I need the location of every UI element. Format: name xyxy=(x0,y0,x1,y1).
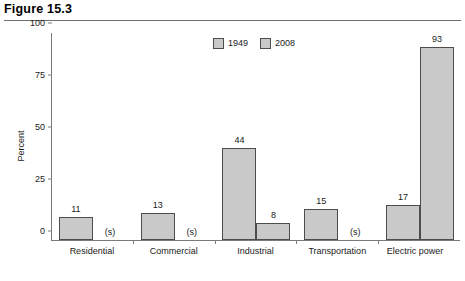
bar-value-label: 13 xyxy=(141,201,175,210)
bar-slot: 44 xyxy=(222,33,256,240)
bar[interactable] xyxy=(420,47,454,240)
bar[interactable] xyxy=(141,213,175,240)
bar-value-label: 17 xyxy=(386,193,420,202)
bar-value-label: 44 xyxy=(222,136,256,145)
bar-chart: Percent 1949 2008 0255075100 11(s)13(s)4… xyxy=(0,22,465,281)
bar[interactable] xyxy=(256,223,290,240)
y-axis-label: Percent xyxy=(16,116,26,176)
bar-slot: 13 xyxy=(141,33,175,240)
bar[interactable] xyxy=(304,209,338,240)
x-axis-tick-mark xyxy=(133,240,134,244)
y-axis-tick: 50 xyxy=(35,123,52,132)
bar-group: 1793 xyxy=(379,33,461,240)
bar-value-label: 11 xyxy=(59,205,93,214)
bar-value-label: 8 xyxy=(256,211,290,220)
bar[interactable] xyxy=(59,217,93,240)
bar[interactable] xyxy=(222,148,256,240)
bar-group-inner: 15(s) xyxy=(297,33,379,240)
bar-group-inner: 13(s) xyxy=(134,33,216,240)
bar-value-label: 15 xyxy=(304,197,338,206)
x-axis-tick-mark xyxy=(296,240,297,244)
bar-group: 448 xyxy=(216,33,298,240)
plot-area: 0255075100 11(s)13(s)44815(s)1793 xyxy=(51,33,460,241)
bar-value-label: 93 xyxy=(420,35,454,44)
bar-slot: 17 xyxy=(386,33,420,240)
bar-group-inner: 11(s) xyxy=(52,33,134,240)
suppressed-value-label: (s) xyxy=(93,228,127,237)
y-axis-tick-label: 100 xyxy=(30,19,45,28)
title-divider xyxy=(4,20,461,21)
bar-group-inner: 448 xyxy=(216,33,298,240)
y-axis-tick: 0 xyxy=(40,227,52,236)
y-axis-tick-label: 75 xyxy=(35,71,45,80)
x-axis-tick-mark xyxy=(215,240,216,244)
bar-groups: 11(s)13(s)44815(s)1793 xyxy=(52,33,460,240)
y-axis-tick-mark xyxy=(48,23,52,24)
y-axis-tick: 75 xyxy=(35,71,52,80)
bar-slot: 93 xyxy=(420,33,454,240)
x-axis-category-label: Industrial xyxy=(215,246,297,257)
bar-slot: 15 xyxy=(304,33,338,240)
x-axis-category-label: Residential xyxy=(51,246,133,257)
bar[interactable] xyxy=(386,205,420,240)
y-axis-tick: 25 xyxy=(35,175,52,184)
bar-group: 15(s) xyxy=(297,33,379,240)
suppressed-value-label: (s) xyxy=(175,228,209,237)
bar-group: 13(s) xyxy=(134,33,216,240)
y-axis-tick: 100 xyxy=(30,19,52,28)
y-axis-tick-label: 50 xyxy=(35,123,45,132)
x-axis-category-label: Commercial xyxy=(133,246,215,257)
y-axis-tick-label: 0 xyxy=(40,227,45,236)
bar-group: 11(s) xyxy=(52,33,134,240)
bar-group-inner: 1793 xyxy=(379,33,461,240)
suppressed-value-label: (s) xyxy=(338,228,372,237)
bar-slot: (s) xyxy=(175,33,209,240)
x-axis-tick-mark xyxy=(378,240,379,244)
x-axis-category-label: Transportation xyxy=(296,246,378,257)
bar-slot: (s) xyxy=(338,33,372,240)
y-axis-tick-label: 25 xyxy=(35,175,45,184)
bar-slot: (s) xyxy=(93,33,127,240)
page-title: Figure 15.3 xyxy=(4,2,72,16)
x-axis-category-label: Electric power xyxy=(378,246,452,257)
bar-slot: 11 xyxy=(59,33,93,240)
bar-slot: 8 xyxy=(256,33,290,240)
